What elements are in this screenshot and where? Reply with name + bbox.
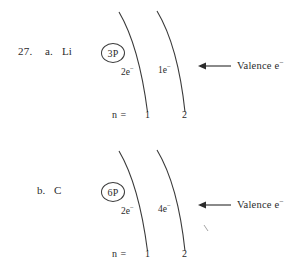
stray-pencil-mark [204,225,208,231]
n-value-1-b: 1 [145,249,150,259]
element-symbol-b: C [54,185,61,196]
shell-electron-count-n1-b: 2e [121,206,130,216]
shell-electron-count-n1-a: 2e [121,67,130,77]
left-arrow-icon [198,202,231,209]
shell-arc-n2 [157,11,185,112]
n-prefix-b: n = [112,249,127,259]
valence-charge-b: − [279,197,283,206]
n-prefix-a: n = [112,110,127,120]
valence-charge-a: − [279,58,283,67]
electron-charge-n1-a: − [130,65,134,72]
shell-electron-label-n1-a: 2e− [121,68,134,78]
electron-charge-n2-a: − [167,63,171,70]
question-number: 27. [18,46,33,57]
shell-arc-n1 [119,12,148,112]
valence-annotation-b: Valence e− [237,200,284,211]
nucleus-label-a: 3P [108,48,119,59]
left-arrow-icon [198,63,231,70]
problem-item-a: 27. a. Li 3P 2e− 1e− Valence e− n = 1 2 [0,0,304,139]
item-letter-a: a. [45,46,53,57]
n-value-1-a: 1 [145,110,150,120]
valence-annotation-a: Valence e− [237,61,284,72]
shell-electron-label-n1-b: 2e− [121,207,134,217]
element-symbol-a: Li [62,46,72,57]
nucleus-circle-a: 3P [101,43,125,63]
shell-electron-count-n2-a: 1e [158,65,167,75]
electron-charge-n2-b: − [167,202,171,209]
n-value-2-a: 2 [182,110,187,120]
shell-electron-count-n2-b: 4e [158,204,167,214]
n-value-2-b: 2 [182,249,187,259]
problem-item-b: b. C 6P 2e− 4e− Valence e− n = 1 2 [0,139,304,278]
shell-electron-label-n2-b: 4e− [158,205,171,215]
shell-arc-n2 [157,150,185,251]
nucleus-circle-b: 6P [101,182,125,202]
valence-annotation-text-b: Valence e [237,199,279,210]
item-letter-b: b. [37,185,45,196]
shell-electron-label-n2-a: 1e− [158,66,171,76]
nucleus-label-b: 6P [108,187,119,198]
electron-charge-n1-b: − [130,204,134,211]
shell-arc-n1 [119,151,148,251]
valence-annotation-text-a: Valence e [237,60,279,71]
